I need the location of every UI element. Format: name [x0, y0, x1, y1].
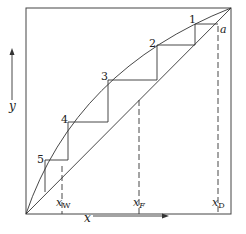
stage-label-4: 4 — [61, 113, 68, 126]
x-axis-label: x — [84, 211, 91, 225]
xf-label: xF — [133, 196, 145, 210]
xw-label: xW — [56, 196, 71, 210]
operating-line — [26, 8, 231, 214]
point-label-a: a — [220, 23, 227, 36]
composition-lines — [62, 26, 218, 214]
y-axis-arrowhead-icon — [10, 48, 15, 55]
stage-label-2: 2 — [149, 37, 156, 50]
y-axis-label: y — [8, 99, 16, 113]
stage-label-1: 1 — [189, 13, 196, 26]
stage-label-3: 3 — [101, 70, 108, 83]
stage-label-5: 5 — [37, 153, 44, 166]
mccabe-thiele-diagram: 1 2 3 4 5 a y x xW xF xD — [0, 0, 246, 234]
